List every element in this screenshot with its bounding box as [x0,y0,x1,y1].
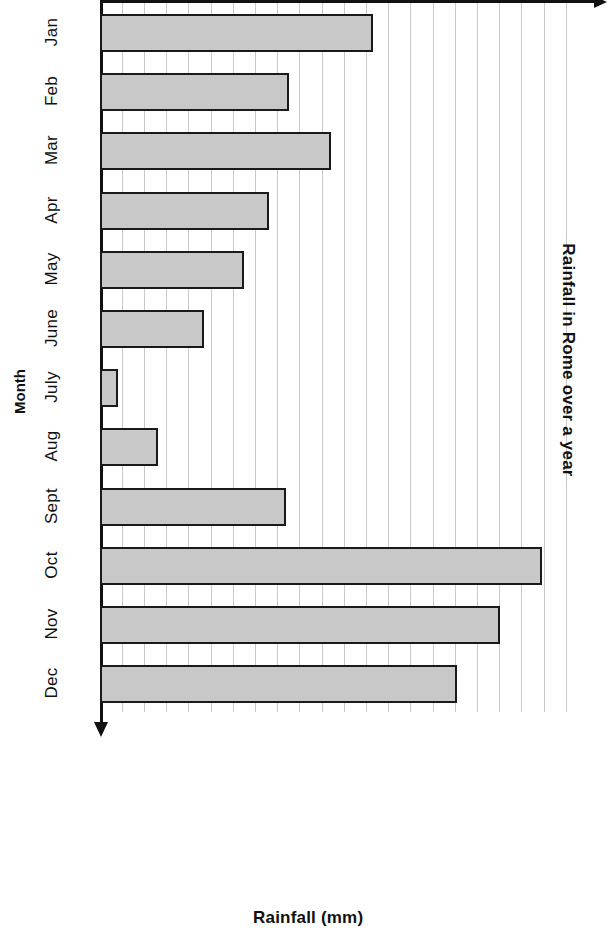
bar-aug [100,428,158,466]
bar-nov [100,606,500,644]
bar-oct [100,547,542,585]
y-axis-title: Month [11,369,28,414]
chart-title: Rainfall in Rome over a year [558,243,578,476]
gridline [544,0,545,712]
bar-jan [100,14,373,52]
value-axis-line [100,0,595,3]
category-axis-arrow-icon [94,722,108,737]
bar-mar [100,132,331,170]
value-axis-arrow-icon [594,0,607,8]
bar-feb [100,73,289,111]
category-label-dec: Dec [42,648,62,718]
bar-july [100,369,118,407]
bar-sept [100,488,286,526]
bar-apr [100,192,269,230]
bar-dec [100,665,457,703]
x-axis-title: Rainfall (mm) [253,908,363,928]
bar-june [100,310,204,348]
gridline [521,0,522,712]
bar-may [100,251,244,289]
